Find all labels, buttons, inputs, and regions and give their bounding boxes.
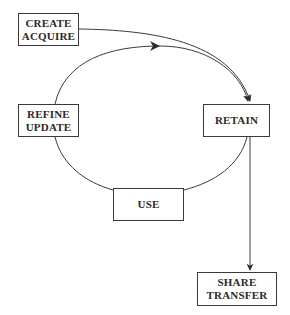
node-retain: RETAIN — [203, 104, 270, 137]
edge-create-to-retain — [79, 29, 250, 101]
node-refine-update: REFINE UPDATE — [18, 104, 79, 137]
node-share-line1: SHARE — [218, 276, 257, 289]
node-use: USE — [113, 188, 184, 221]
node-refine-line2: UPDATE — [26, 121, 72, 134]
node-create-line2: ACQUIRE — [22, 30, 75, 43]
diagram-edges — [0, 0, 290, 315]
node-retain-label: RETAIN — [215, 114, 258, 127]
edge-retain-to-use — [184, 137, 247, 190]
edge-use-to-refine — [55, 137, 113, 190]
edge-refine-to-retain-loop — [55, 46, 248, 104]
node-share-line2: TRANSFER — [207, 289, 268, 302]
node-refine-line1: REFINE — [27, 108, 70, 121]
node-create-acquire: CREATE ACQUIRE — [18, 13, 79, 46]
node-create-line1: CREATE — [25, 17, 71, 30]
node-share-transfer: SHARE TRANSFER — [197, 272, 277, 306]
node-use-label: USE — [138, 198, 160, 211]
